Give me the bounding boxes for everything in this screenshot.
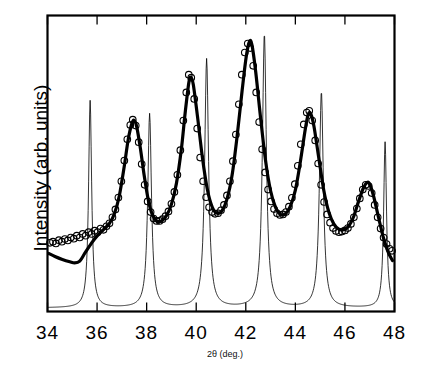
x-tick-label: 46 <box>333 322 356 344</box>
x-tick-label: 36 <box>86 322 109 344</box>
plot-frame <box>48 16 395 312</box>
x-tick-label: 42 <box>234 322 257 344</box>
x-tick-label: 34 <box>36 322 59 344</box>
y-axis-label: Intensity (arb. units) <box>30 23 52 313</box>
x-tick-label: 44 <box>284 322 307 344</box>
x-tick-label: 48 <box>383 322 406 344</box>
x-axis-tick-labels: 3436384042444648 <box>0 322 431 346</box>
reference-peaks-curve <box>48 36 395 307</box>
observed-data-markers <box>47 40 396 254</box>
xrd-pattern-figure: Intensity (arb. units) 3436384042444648 … <box>0 0 431 379</box>
x-axis-label: 2θ (deg.) <box>150 349 300 359</box>
x-tick-label: 38 <box>135 322 158 344</box>
x-tick-label: 40 <box>185 322 208 344</box>
